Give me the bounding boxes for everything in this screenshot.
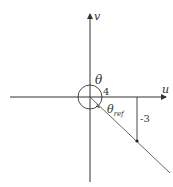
vertical-leg-label: -3 <box>140 113 150 124</box>
terminal-ray <box>90 97 170 173</box>
coordinate-diagram: v u θ 4 θref -3 <box>0 0 173 187</box>
reference-angle-subscript: ref <box>114 110 125 118</box>
horizontal-leg-label: 4 <box>103 86 109 97</box>
point-marker <box>135 139 138 142</box>
reference-angle-label: θref <box>107 103 125 118</box>
u-axis-label: u <box>162 83 169 96</box>
v-axis-label: v <box>94 10 101 23</box>
theta-label: θ <box>95 73 103 87</box>
